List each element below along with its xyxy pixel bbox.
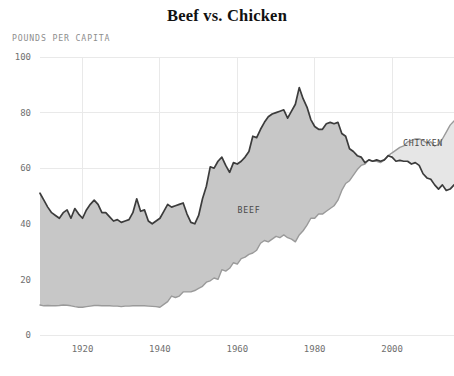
y-axis-tick-label: 20 — [20, 275, 31, 285]
series-label-beef: BEEF — [237, 205, 260, 215]
x-axis-tick-label: 1960 — [226, 344, 248, 354]
y-axis-tick-labels: 020406080100 — [15, 52, 31, 340]
chart-container: Beef vs. Chicken POUNDS PER CAPITA 02040… — [0, 0, 454, 376]
y-axis-tick-label: 60 — [20, 163, 31, 173]
x-axis-tick-label: 1940 — [149, 344, 171, 354]
series-label-chicken: CHICKEN — [403, 138, 443, 148]
y-axis-tick-label: 40 — [20, 219, 31, 229]
x-axis-tick-label: 1980 — [304, 344, 326, 354]
area-chart-plot: 020406080100 19201940196019802000 BEEFCH… — [0, 0, 454, 376]
y-axis-tick-label: 80 — [20, 108, 31, 118]
y-axis-tick-label: 100 — [15, 52, 31, 62]
x-axis-tick-labels: 19201940196019802000 — [72, 344, 403, 354]
x-axis-tick-label: 1920 — [72, 344, 94, 354]
y-axis-tick-label: 0 — [26, 330, 31, 340]
x-axis-tick-label: 2000 — [381, 344, 403, 354]
